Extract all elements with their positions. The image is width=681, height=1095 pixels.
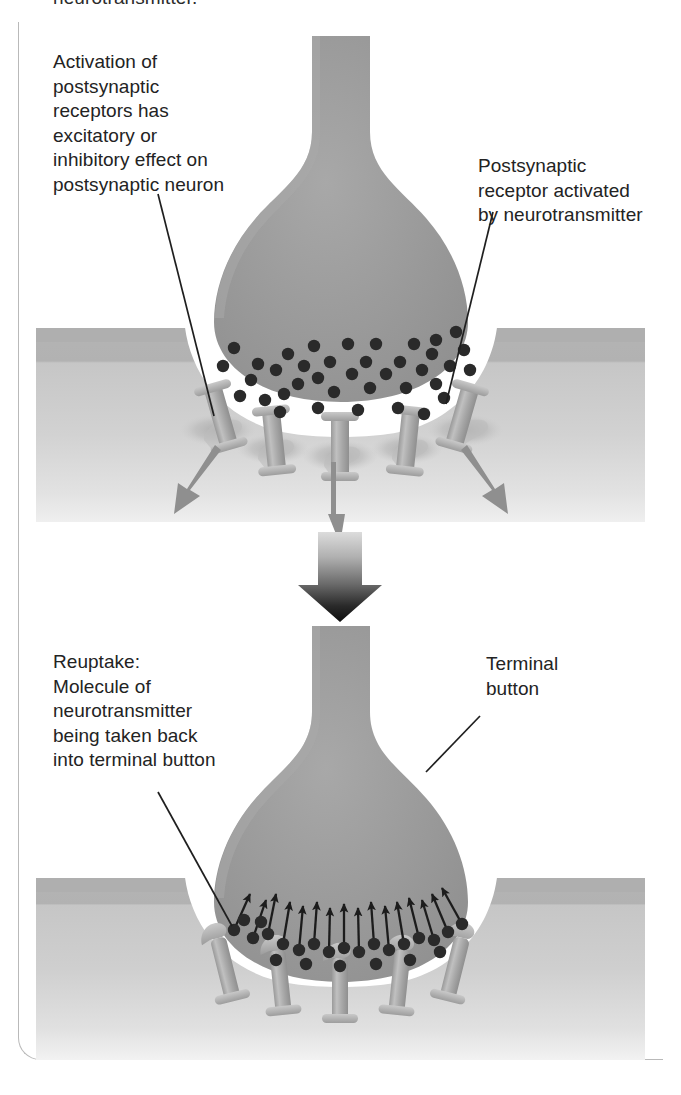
transition-arrow <box>298 532 382 622</box>
label-activation: Activation of postsynaptic receptors has… <box>53 50 224 198</box>
terminal-button-top <box>214 36 468 402</box>
diagram-page: neurotransmitter. <box>0 0 681 1095</box>
clipped-caption-text: neurotransmitter. <box>53 0 197 9</box>
clipped-caption-above: neurotransmitter. <box>0 0 681 16</box>
leader-line-terminal-button <box>426 716 480 772</box>
label-terminal-button: Terminal button <box>486 652 558 701</box>
label-reuptake: Reuptake: Molecule of neurotransmitter b… <box>53 650 216 773</box>
label-postsynaptic-receptor: Postsynaptic receptor activated by neuro… <box>478 154 643 228</box>
figure-container: Activation of postsynaptic receptors has… <box>18 22 663 1082</box>
